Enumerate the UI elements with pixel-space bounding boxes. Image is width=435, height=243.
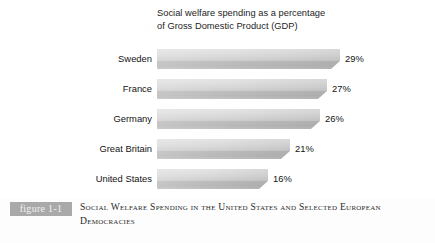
bar-body-top [157,49,340,61]
figure-number-badge: figure 1-1 [10,202,72,216]
chart-title-line-2: of Gross Domestic Product (GDP) [157,20,407,33]
category-label-great-britain: Great Britain [99,142,152,155]
category-label-france: France [123,82,152,95]
bar-body-top [157,139,290,151]
bar-body-bevel [157,91,327,99]
bar-great-britain [157,139,290,159]
bar-row: Sweden 29% [0,49,435,69]
chart-title: Social welfare spending as a percentage … [157,7,407,32]
bar-row: Great Britain 21% [0,139,435,159]
bar-sweden [157,49,340,69]
figure-caption-line-2: Democracies [80,214,432,228]
bar-united-states [157,169,268,189]
value-label-sweden: 29% [345,52,364,65]
bar-germany [157,109,320,129]
figure-caption-line-1: Social Welfare Spending in the United St… [80,200,432,214]
category-label-germany: Germany [113,112,152,125]
bar-chart-plot-area: Sweden 29% France 27% Germany [0,45,435,195]
value-label-great-britain: 21% [295,142,314,155]
bar-body-bevel [157,121,320,129]
chart-title-line-1: Social welfare spending as a percentage [157,7,407,20]
figure-caption-text: Social Welfare Spending in the United St… [80,200,432,227]
bar-body-top [157,169,268,181]
bar-body-bevel [157,61,340,69]
bar-body-bevel [157,151,290,159]
bar-row: Germany 26% [0,109,435,129]
bar-body-bevel [157,181,268,189]
bar-france [157,79,327,99]
bar-body-top [157,109,320,121]
category-label-united-states: United States [96,172,152,185]
bar-body-top [157,79,327,91]
bar-row: France 27% [0,79,435,99]
bar-row: United States 16% [0,169,435,189]
value-label-germany: 26% [325,112,344,125]
value-label-france: 27% [332,82,351,95]
category-label-sweden: Sweden [118,52,152,65]
figure-container: Social welfare spending as a percentage … [0,0,435,243]
value-label-united-states: 16% [273,172,292,185]
